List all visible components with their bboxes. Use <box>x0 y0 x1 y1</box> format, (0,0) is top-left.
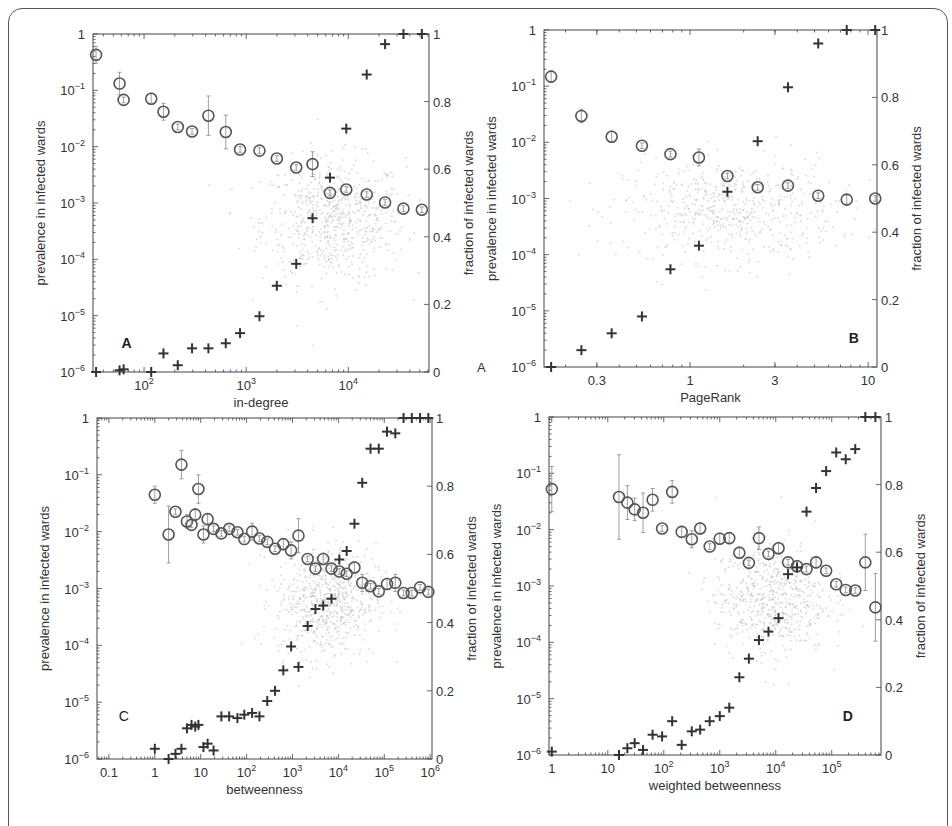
y-tick-label-right: 0.8 <box>433 95 451 110</box>
x-axis-title: betweenness <box>226 782 303 797</box>
y-tick-label-right: 0 <box>885 748 892 763</box>
prevalence-series <box>546 455 881 641</box>
panel-c-betweenness: 110−110−210−310−410−510−600.20.40.60.810… <box>37 411 479 797</box>
y-axis-title-right: fraction of infected wards <box>909 126 924 271</box>
y-tick-label-left: 10−6 <box>511 358 536 375</box>
plot-area <box>93 34 429 372</box>
ward-scatter-cloud <box>688 496 864 685</box>
y-tick-label-left: 10−6 <box>60 363 85 380</box>
prevalence-series <box>91 46 428 215</box>
x-tick-label: 102 <box>237 763 256 780</box>
y-tick-label-left: 1 <box>529 23 536 38</box>
y-tick-label-right: 0.4 <box>881 225 899 240</box>
y-tick-label-left: 10−3 <box>511 190 536 207</box>
x-tick-label: 104 <box>329 763 348 780</box>
y-tick-label-right: 0.2 <box>885 680 903 695</box>
y-tick-label-right: 0.4 <box>436 616 454 631</box>
x-tick-label: 106 <box>420 763 439 780</box>
y-tick-label-right: 0.2 <box>881 293 899 308</box>
y-tick-label-right: 1 <box>885 410 892 425</box>
fraction-series <box>546 25 880 372</box>
x-tick-label: 103 <box>710 759 729 776</box>
y-tick-label-left: 10−4 <box>64 636 89 653</box>
stray-panel-label: A <box>477 360 486 375</box>
y-axis-title-right: fraction of infected wards <box>461 130 476 275</box>
y-tick-label-left: 10−1 <box>511 77 536 94</box>
x-tick-label: 10 <box>601 761 615 776</box>
x-tick-label: 0.1 <box>100 765 118 780</box>
y-tick-label-left: 10−2 <box>516 521 541 538</box>
x-tick-label: 105 <box>375 763 394 780</box>
y-tick-label-left: 10−2 <box>511 133 536 150</box>
x-axis-title: weighted betweenness <box>648 778 782 793</box>
x-tick-label: 102 <box>654 759 673 776</box>
y-tick-label-left: 10−4 <box>511 246 536 263</box>
y-axis-title-left: prevalence in infected wards <box>484 116 499 281</box>
x-tick-label: 103 <box>236 376 255 393</box>
y-tick-label-right: 0.8 <box>881 90 899 105</box>
y-tick-label-left: 1 <box>534 410 541 425</box>
y-tick-label-left: 1 <box>82 411 89 426</box>
y-tick-label-left: 10−3 <box>64 580 89 597</box>
y-axis-title-left: prevalence in infected wards <box>489 503 504 668</box>
y-tick-label-left: 10−3 <box>516 577 541 594</box>
x-tick-label: 1 <box>548 761 555 776</box>
y-tick-label-left: 10−5 <box>64 693 89 710</box>
panel-d-weighted-betweenness: 110−110−210−310−410−510−600.20.40.60.811… <box>489 410 928 793</box>
y-tick-label-left: 10−1 <box>64 466 89 483</box>
y-axis-title-right: fraction of infected wards <box>913 513 928 658</box>
y-tick-label-right: 0.2 <box>433 297 451 312</box>
plot-area <box>544 30 877 367</box>
y-tick-label-right: 0.8 <box>436 479 454 494</box>
x-tick-label: 103 <box>283 763 302 780</box>
prevalence-series <box>546 71 881 205</box>
y-tick-label-left: 10−4 <box>516 633 541 650</box>
y-tick-label-right: 0.6 <box>436 547 454 562</box>
y-tick-label-left: 10−1 <box>516 464 541 481</box>
panel-letter: C <box>119 708 129 724</box>
y-tick-label-right: 0.2 <box>436 684 454 699</box>
x-tick-label: 105 <box>822 759 841 776</box>
y-tick-label-left: 10−6 <box>516 746 541 763</box>
y-tick-label-right: 0.4 <box>885 613 903 628</box>
x-tick-label: 1 <box>151 765 158 780</box>
panel-b-pagerank: 110−110−210−310−410−510−600.20.40.60.810… <box>484 23 924 405</box>
ward-scatter-cloud <box>569 136 876 291</box>
y-tick-label-right: 0.6 <box>881 158 899 173</box>
prevalence-series <box>149 450 434 598</box>
y-tick-label-right: 0.6 <box>433 162 451 177</box>
y-tick-label-right: 1 <box>881 23 888 38</box>
x-tick-label: 102 <box>134 376 153 393</box>
y-tick-label-left: 10−2 <box>64 523 89 540</box>
y-tick-label-left: 10−5 <box>60 307 85 324</box>
x-tick-label: 10 <box>193 765 207 780</box>
x-tick-label: 104 <box>339 376 358 393</box>
panel-letter: A <box>122 335 132 351</box>
figure-canvas: 110−110−210−310−410−510−600.20.40.60.811… <box>0 0 952 826</box>
plot-area <box>97 418 432 759</box>
y-tick-label-left: 10−1 <box>60 81 85 98</box>
y-axis-title-right: fraction of infected wards <box>464 516 479 661</box>
x-axis-title: in-degree <box>234 395 289 410</box>
panel-letter: B <box>849 330 859 346</box>
y-tick-label-left: 10−5 <box>516 690 541 707</box>
y-tick-label-left: 10−6 <box>64 750 89 767</box>
y-axis-title-left: prevalence in infected wards <box>33 120 48 285</box>
y-tick-label-left: 10−3 <box>60 194 85 211</box>
y-tick-label-right: 1 <box>436 411 443 426</box>
x-tick-label: 3 <box>771 373 778 388</box>
y-tick-label-right: 1 <box>433 27 440 42</box>
y-tick-label-right: 0 <box>433 365 440 380</box>
y-tick-label-right: 0 <box>881 360 888 375</box>
fraction-series <box>91 29 427 377</box>
x-tick-label: 10 <box>861 373 875 388</box>
x-tick-label: 0.3 <box>588 373 606 388</box>
y-tick-label-right: 0.6 <box>885 545 903 560</box>
x-axis-title: PageRank <box>680 390 741 405</box>
y-tick-label-left: 10−2 <box>60 138 85 155</box>
y-tick-label-left: 10−5 <box>511 302 536 319</box>
y-axis-title-left: prevalence in infected wards <box>37 506 52 671</box>
y-tick-label-left: 1 <box>78 27 85 42</box>
x-tick-label: 1 <box>686 373 693 388</box>
panel-letter: D <box>843 708 853 724</box>
